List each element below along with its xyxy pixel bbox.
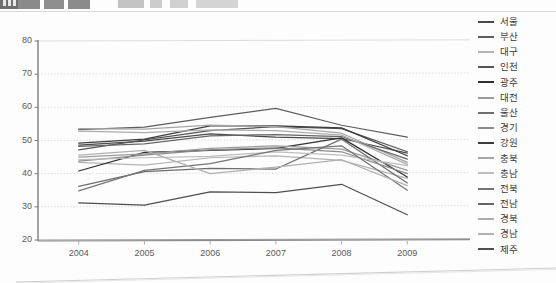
- y-axis-tick-label: 30: [10, 201, 32, 211]
- legend-item-label: 경기: [500, 123, 518, 133]
- caption-badge-tick: [13, 0, 16, 6]
- legend-swatch-icon: [478, 21, 494, 23]
- legend-item-label: 울산: [500, 108, 518, 118]
- legend-swatch-icon: [478, 81, 494, 83]
- legend-item[interactable]: 부산: [478, 29, 556, 44]
- legend-item-label: 경북: [500, 214, 518, 224]
- legend-item-label: 강원: [500, 138, 518, 148]
- legend-item[interactable]: 전북: [478, 181, 556, 196]
- legend-item[interactable]: 충북: [478, 151, 556, 166]
- series-line: [79, 150, 408, 185]
- x-axis-tick-label: 2007: [256, 248, 296, 258]
- legend-swatch-icon: [478, 188, 494, 190]
- legend-swatch-icon: [478, 157, 494, 159]
- y-axis-tick-label: 40: [10, 168, 32, 178]
- y-axis-tick-label: 80: [10, 35, 32, 45]
- legend-swatch-icon: [478, 218, 494, 220]
- x-axis-tick-label: 2009: [387, 248, 427, 258]
- legend-item-label: 제주: [500, 245, 518, 255]
- page-canvas: 80706050403020 200420052006200720082009 …: [0, 0, 556, 283]
- caption-title-ghost: [118, 0, 238, 8]
- gridlines: [38, 40, 470, 240]
- legend-item[interactable]: 대전: [478, 90, 556, 105]
- legend-swatch-icon: [478, 233, 494, 235]
- legend-item[interactable]: 경북: [478, 211, 556, 226]
- legend-swatch-icon: [478, 248, 494, 250]
- x-axis-tick-label: 2004: [59, 248, 99, 258]
- series-line: [79, 184, 408, 215]
- legend-item[interactable]: 충남: [478, 166, 556, 181]
- series-line: [79, 108, 408, 137]
- series-lines: [79, 108, 408, 214]
- legend-item[interactable]: 대구: [478, 44, 556, 59]
- caption-text-blocks: [18, 0, 90, 9]
- chart-legend: 서울부산대구인천광주대전울산경기강원충북충남전북전남경북경남제주: [478, 14, 556, 257]
- y-axis-tick-label: 70: [10, 68, 32, 78]
- legend-swatch-icon: [478, 51, 494, 53]
- legend-swatch-icon: [478, 172, 494, 174]
- legend-item-label: 광주: [500, 78, 518, 88]
- legend-swatch-icon: [478, 97, 494, 99]
- legend-swatch-icon: [478, 142, 494, 144]
- legend-item[interactable]: 서울: [478, 14, 556, 29]
- legend-item-label: 대전: [500, 93, 518, 103]
- legend-item-label: 인천: [500, 62, 518, 72]
- legend-item-label: 전남: [500, 199, 518, 209]
- legend-item[interactable]: 전남: [478, 196, 556, 211]
- legend-item-label: 경남: [500, 229, 518, 239]
- page-edge-artifact: [0, 261, 556, 283]
- legend-item-label: 전북: [500, 184, 518, 194]
- legend-item-label: 서울: [500, 17, 518, 27]
- legend-swatch-icon: [478, 127, 494, 129]
- legend-swatch-icon: [478, 112, 494, 114]
- legend-item[interactable]: 울산: [478, 105, 556, 120]
- x-axis-tick-label: 2008: [322, 248, 362, 258]
- legend-item[interactable]: 인천: [478, 60, 556, 75]
- legend-swatch-icon: [478, 36, 494, 38]
- legend-item[interactable]: 광주: [478, 75, 556, 90]
- y-axis-tick-label: 50: [10, 135, 32, 145]
- legend-item[interactable]: 경남: [478, 227, 556, 242]
- y-axis-tick-label: 60: [10, 101, 32, 111]
- legend-swatch-icon: [478, 66, 494, 68]
- line-chart: 80706050403020 200420052006200720082009: [0, 12, 556, 262]
- figure-caption-bar: [0, 0, 556, 11]
- legend-item-label: 충북: [500, 154, 518, 164]
- x-axis-tick-label: 2005: [124, 248, 164, 258]
- legend-item-label: 충남: [500, 169, 518, 179]
- plot-area: [0, 12, 556, 262]
- y-axis-tick-label: 20: [10, 234, 32, 244]
- legend-item-label: 대구: [500, 47, 518, 57]
- legend-item[interactable]: 경기: [478, 120, 556, 135]
- legend-swatch-icon: [478, 203, 494, 205]
- caption-badge-tick: [8, 0, 11, 6]
- legend-item-label: 부산: [500, 32, 518, 42]
- legend-item[interactable]: 제주: [478, 242, 556, 257]
- series-line: [79, 139, 408, 186]
- x-axis-tick-label: 2006: [190, 248, 230, 258]
- legend-item[interactable]: 강원: [478, 136, 556, 151]
- caption-badge-tick: [3, 0, 6, 6]
